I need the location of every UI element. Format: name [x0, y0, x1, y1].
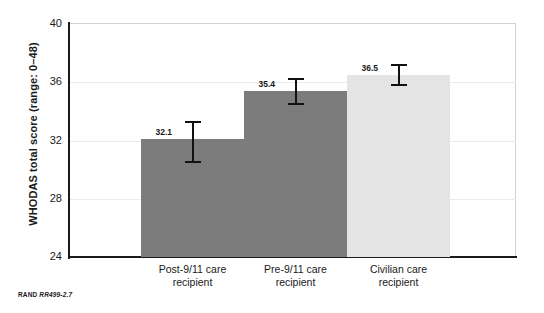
- x-axis-label-2: Pre-9/11 carerecipient: [236, 263, 356, 289]
- data-label-2: 35.4: [259, 79, 276, 89]
- data-label-1: 32.1: [156, 127, 173, 137]
- error-bar-stem-1: [192, 122, 194, 163]
- error-bar-cap-1-lower: [185, 161, 201, 163]
- error-bar-stem-2: [295, 79, 297, 104]
- x-label-line: Pre-9/11 care: [236, 263, 356, 276]
- error-bar-cap-3-upper: [391, 64, 407, 66]
- whodas-bar-chart-figure: WHODAS total score (range: 0–48) 2428323…: [0, 0, 544, 313]
- bar-2[interactable]: [244, 91, 347, 257]
- y-tick-label-36: 36: [22, 75, 62, 87]
- data-label-3: 36.5: [362, 63, 379, 73]
- error-bar-cap-3-lower: [391, 84, 407, 86]
- x-label-line: Civilian care: [339, 263, 459, 276]
- x-label-line: recipient: [236, 276, 356, 289]
- y-tick-label-32: 32: [22, 134, 62, 146]
- y-tick-label-40: 40: [22, 17, 62, 29]
- x-label-line: recipient: [133, 276, 253, 289]
- bar-3[interactable]: [347, 75, 450, 257]
- figure-note-prefix: RAND: [18, 291, 37, 298]
- bars-layer: [69, 24, 516, 257]
- y-tick-label-28: 28: [22, 192, 62, 204]
- error-bar-cap-2-upper: [288, 78, 304, 80]
- error-bar-stem-3: [398, 65, 400, 85]
- x-axis-label-1: Post-9/11 carerecipient: [133, 263, 253, 289]
- x-label-line: recipient: [339, 276, 459, 289]
- figure-note-id: RR499-2.7: [39, 291, 72, 298]
- error-bar-cap-1-upper: [185, 121, 201, 123]
- y-tick-label-24: 24: [22, 250, 62, 262]
- x-label-line: Post-9/11 care: [133, 263, 253, 276]
- x-axis-label-3: Civilian carerecipient: [339, 263, 459, 289]
- error-bar-cap-2-lower: [288, 103, 304, 105]
- figure-source-note: RAND RR499-2.7: [18, 291, 72, 298]
